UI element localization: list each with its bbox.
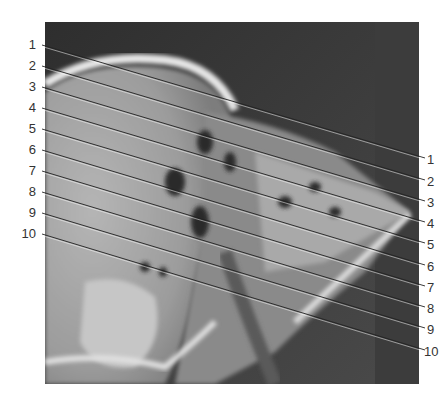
ct-scan-image [45,22,419,384]
label-left-10: 10 [0,227,36,240]
label-right-4: 4 [427,217,434,230]
label-left-1: 1 [0,38,36,51]
ct-scan-rendering [45,22,419,384]
label-right-10: 10 [424,345,438,358]
label-right-1: 1 [427,153,434,166]
label-right-3: 3 [427,196,434,209]
label-left-3: 3 [0,80,36,93]
label-right-9: 9 [427,323,434,336]
label-right-8: 8 [427,302,434,315]
label-right-6: 6 [427,260,434,273]
label-right-5: 5 [427,238,434,251]
label-left-2: 2 [0,59,36,72]
label-left-6: 6 [0,143,36,156]
label-left-4: 4 [0,101,36,114]
label-right-7: 7 [427,281,434,294]
label-left-5: 5 [0,122,36,135]
label-left-7: 7 [0,164,36,177]
label-left-8: 8 [0,185,36,198]
label-right-2: 2 [427,175,434,188]
label-left-9: 9 [0,206,36,219]
